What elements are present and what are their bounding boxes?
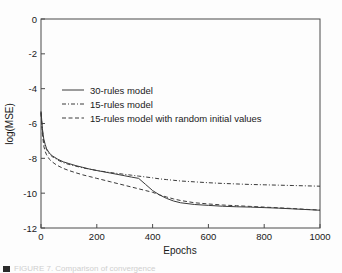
y-tick-label: -2 xyxy=(29,48,37,59)
x-axis-tick-labels: 02004006008001000 xyxy=(38,231,330,242)
x-tick-label: 800 xyxy=(256,231,272,242)
x-tick-label: 400 xyxy=(145,231,161,242)
y-tick-label: -6 xyxy=(29,118,37,129)
y-axis-title: log(MSE) xyxy=(4,103,15,145)
y-tick-label: 0 xyxy=(32,14,37,25)
y-tick-label: -12 xyxy=(23,223,37,234)
x-tick-label: 1000 xyxy=(309,231,330,242)
x-axis-ticks xyxy=(41,224,320,228)
caption-strip: FIGURE 7. Comparison of convergence xyxy=(0,264,342,273)
chart-legend: 30-rules model15-rules model15-rules mod… xyxy=(62,85,262,124)
y-tick-label: -4 xyxy=(29,83,37,94)
x-axis-title: Epochs xyxy=(163,245,196,256)
curve-15-rules-model-with-random-initial-values xyxy=(41,113,320,210)
plot-frame xyxy=(41,19,320,228)
figure-container: 0-2-4-6-8-10-12 02004006008001000 Epochs… xyxy=(0,0,342,273)
x-tick-label: 0 xyxy=(38,231,43,242)
data-curves xyxy=(41,111,320,210)
legend-label-2: 15-rules model xyxy=(90,99,153,110)
y-tick-label: -8 xyxy=(29,153,37,164)
x-tick-label: 200 xyxy=(89,231,105,242)
convergence-chart: 0-2-4-6-8-10-12 02004006008001000 Epochs… xyxy=(0,0,342,273)
legend-label-1: 30-rules model xyxy=(90,85,153,96)
caption-marker-icon xyxy=(3,266,10,272)
y-axis-tick-labels: 0-2-4-6-8-10-12 xyxy=(23,14,37,234)
x-tick-label: 600 xyxy=(200,231,216,242)
y-tick-label: -10 xyxy=(23,188,37,199)
caption-text: FIGURE 7. Comparison of convergence xyxy=(14,264,155,273)
legend-label-3: 15-rules model with random initial value… xyxy=(90,113,262,124)
curve-30-rules-model xyxy=(41,111,320,210)
